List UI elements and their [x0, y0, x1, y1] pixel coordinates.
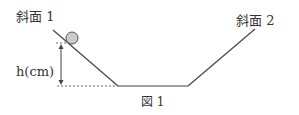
ball-icon — [66, 32, 78, 44]
height-arrow-up-icon — [59, 44, 64, 49]
slope-2-label: 斜面 2 — [236, 14, 274, 27]
ramp-diagram: 斜面 1 斜面 2 h(cm) 図 1 — [0, 0, 299, 115]
slope-1-label: 斜面 1 — [16, 10, 54, 23]
slope-1-line — [53, 30, 118, 86]
height-label: h(cm) — [16, 65, 54, 78]
slope-2-line — [188, 29, 255, 86]
height-arrow-down-icon — [59, 80, 64, 85]
figure-caption: 図 1 — [141, 96, 164, 108]
